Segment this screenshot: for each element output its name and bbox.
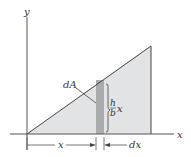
height-variable: x xyxy=(117,103,123,114)
dim-dx-label: dx xyxy=(129,139,141,150)
dim-dx-arrow xyxy=(104,143,110,147)
dim-x-arrow xyxy=(90,143,96,147)
dim-x-label: x xyxy=(58,139,64,150)
triangle-diagram: y x dA h b x x dx xyxy=(0,0,191,157)
dA-label: dA xyxy=(63,79,77,90)
area-element-strip xyxy=(96,80,104,134)
y-axis-label: y xyxy=(23,6,30,17)
height-numerator: h xyxy=(110,98,116,108)
x-axis-label: x xyxy=(177,129,183,140)
height-denominator: b xyxy=(110,108,116,118)
